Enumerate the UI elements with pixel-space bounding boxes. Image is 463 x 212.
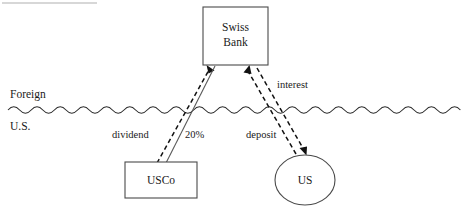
edge-ownership-line bbox=[166, 66, 215, 163]
diagram-canvas: Swiss Bank USCo US Foreign U.S. dividend… bbox=[0, 0, 463, 212]
node-us-label: US bbox=[298, 174, 313, 186]
foreign-us-border-wave bbox=[8, 107, 460, 113]
node-usco-label: USCo bbox=[147, 174, 175, 186]
region-label-foreign: Foreign bbox=[10, 88, 46, 101]
node-swiss-bank-label-line2: Bank bbox=[223, 36, 248, 48]
edge-dividend-line bbox=[157, 70, 209, 163]
edge-deposit-arrowhead bbox=[300, 147, 308, 156]
region-label-us: U.S. bbox=[10, 120, 31, 132]
edge-interest-arrowhead bbox=[244, 65, 252, 74]
diagram-svg: Swiss Bank USCo US Foreign U.S. dividend… bbox=[0, 0, 463, 212]
edge-label-interest: interest bbox=[277, 79, 308, 90]
node-swiss-bank-label-line1: Swiss bbox=[222, 21, 249, 33]
edge-label-deposit: deposit bbox=[246, 129, 276, 140]
edge-label-ownership: 20% bbox=[185, 129, 205, 140]
edge-label-dividend: dividend bbox=[112, 129, 149, 140]
